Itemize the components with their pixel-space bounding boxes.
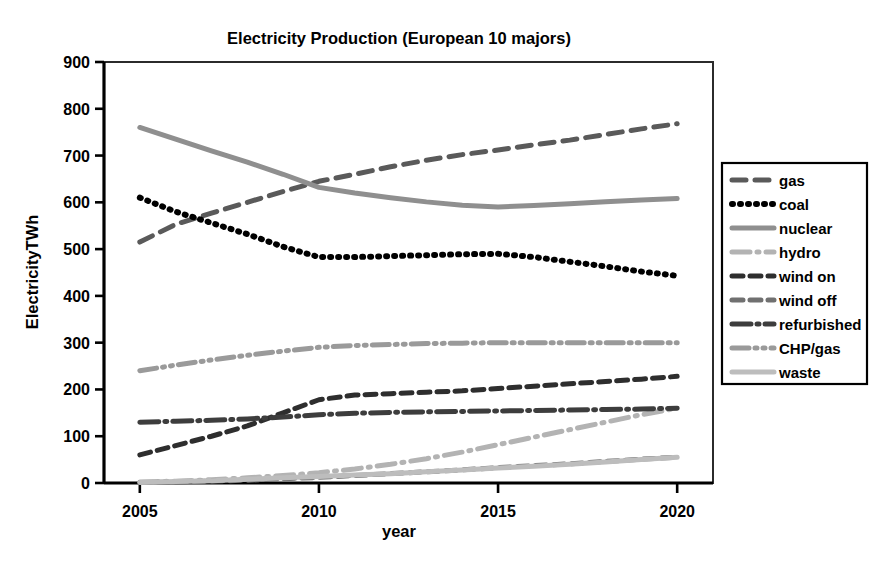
legend-label-hydro: hydro [779,244,821,261]
y-tick-label: 400 [63,288,90,305]
chart-container: Electricity Production (European 10 majo… [0,0,893,562]
y-tick-label: 0 [81,475,90,492]
legend-label-waste: waste [778,364,821,381]
y-tick-label: 700 [63,148,90,165]
legend-label-gas: gas [779,172,805,189]
electricity-production-line-chart: Electricity Production (European 10 majo… [0,0,893,562]
x-tick-label: 2015 [480,503,516,520]
legend-label-wind-on: wind on [778,268,836,285]
y-tick-label: 500 [63,241,90,258]
legend-label-coal: coal [779,196,809,213]
x-tick-label: 2010 [301,503,337,520]
legend-label-wind-off: wind off [778,292,837,309]
legend-label-nuclear: nuclear [779,220,833,237]
y-tick-label: 300 [63,335,90,352]
y-tick-label: 200 [63,381,90,398]
legend-label-refurbished: refurbished [779,316,862,333]
x-axis-title: year [382,522,417,540]
legend-label-chp-gas: CHP/gas [779,340,841,357]
y-tick-label: 800 [63,101,90,118]
x-tick-label: 2005 [122,503,158,520]
y-tick-label: 100 [63,428,90,445]
y-axis-title: ElectricityTWh [23,215,41,330]
x-tick-label: 2020 [659,503,695,520]
y-tick-label: 900 [63,54,90,71]
y-tick-label: 600 [63,194,90,211]
chart-title: Electricity Production (European 10 majo… [227,29,571,47]
